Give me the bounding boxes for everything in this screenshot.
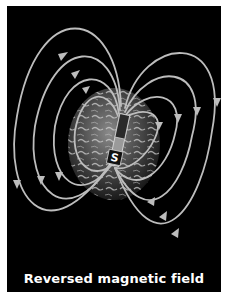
- figure-panel: S Reversed magnetic field: [7, 6, 221, 292]
- figure-caption: Reversed magnetic field: [7, 271, 221, 286]
- magnetic-field-diagram: S: [7, 6, 221, 292]
